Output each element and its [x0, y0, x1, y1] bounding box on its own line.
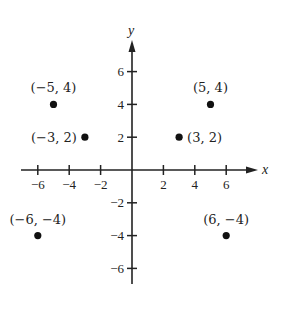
x-tick-label: −6	[31, 177, 45, 192]
data-point	[176, 134, 183, 141]
y-tick-label: −4	[110, 228, 124, 243]
y-tick-label: −6	[110, 261, 124, 276]
data-point	[223, 232, 230, 239]
x-tick-label: −4	[62, 177, 76, 192]
point-label: (3, 2)	[187, 130, 222, 145]
axes: x y	[21, 23, 269, 284]
point-label: (−6, −4)	[9, 212, 66, 227]
y-tick-label: 6	[118, 64, 125, 79]
y-tick-label: 4	[118, 97, 125, 112]
coordinate-plane: x y −6−4−2246 642−2−4−6 (−5, 4)(5, 4)(−3…	[0, 0, 283, 309]
data-point	[34, 232, 41, 239]
x-axis-label: x	[261, 162, 269, 177]
x-ticks: −6−4−2246	[31, 165, 230, 192]
point-label: (6, −4)	[203, 212, 249, 227]
point-label: (−3, 2)	[31, 130, 77, 145]
x-tick-label: 4	[192, 177, 199, 192]
y-axis-label: y	[126, 23, 135, 38]
x-tick-label: −2	[94, 177, 108, 192]
y-tick-label: −2	[110, 195, 124, 210]
x-tick-label: 2	[160, 177, 167, 192]
point-label: (5, 4)	[193, 80, 228, 95]
point-label: (−5, 4)	[31, 80, 77, 95]
y-tick-label: 2	[118, 130, 125, 145]
data-point	[50, 101, 57, 108]
data-point	[81, 134, 88, 141]
x-axis-arrow-icon	[246, 167, 258, 174]
data-point	[207, 101, 214, 108]
x-tick-label: 6	[223, 177, 230, 192]
y-axis-arrow-icon	[129, 40, 136, 52]
